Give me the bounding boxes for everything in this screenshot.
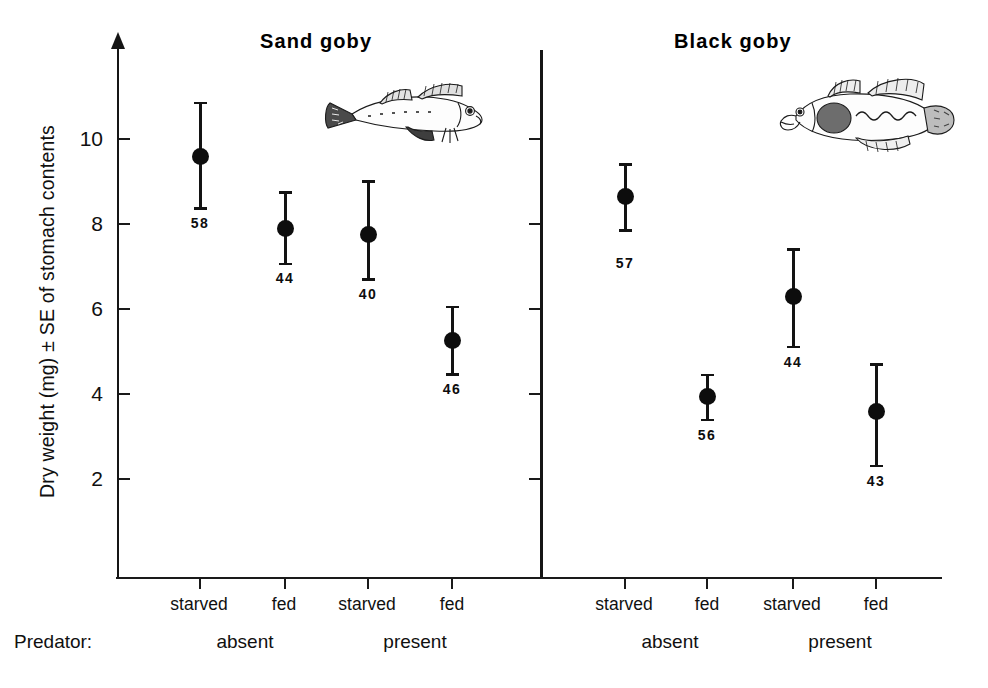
data-point-right-1[interactable]: [617, 188, 634, 205]
y-tick-label-4: 4: [63, 382, 103, 406]
data-point-left-4[interactable]: [444, 332, 461, 349]
error-cap-top-left-3: [362, 180, 375, 183]
error-cap-top-right-3: [787, 248, 800, 251]
panel-title-sand-goby: Sand goby: [260, 30, 372, 53]
data-point-left-1[interactable]: [192, 148, 209, 165]
error-cap-top-left-4: [446, 306, 459, 309]
left-panel-x-axis-line: [116, 577, 541, 579]
n-label-left-1: 58: [175, 215, 225, 231]
x-tick-label-left-1: starved: [149, 594, 249, 615]
group-label-right-absent: absent: [610, 631, 730, 653]
data-point-right-2[interactable]: [699, 388, 716, 405]
x-tick-left-2: [284, 578, 286, 589]
error-cap-bottom-right-4: [870, 465, 883, 468]
n-label-right-4: 43: [851, 473, 901, 489]
error-cap-top-left-1: [194, 102, 207, 105]
x-tick-label-left-3: starved: [317, 594, 417, 615]
figure-root: Dry weight (mg) ± SE of stomach contents…: [0, 0, 988, 688]
sand-goby-illustration: [322, 70, 494, 146]
data-point-left-2[interactable]: [277, 220, 294, 237]
error-cap-bottom-left-1: [194, 207, 207, 210]
black-goby-illustration: [772, 72, 958, 152]
error-cap-bottom-left-2: [279, 263, 292, 266]
data-point-right-4[interactable]: [868, 403, 885, 420]
error-cap-bottom-right-2: [701, 419, 714, 422]
n-label-right-2: 56: [682, 427, 732, 443]
group-label-left-present: present: [350, 631, 480, 653]
error-cap-bottom-right-1: [619, 229, 632, 232]
x-tick-right-4: [875, 578, 877, 589]
n-label-left-2: 44: [260, 270, 310, 286]
y-tick-6: [119, 308, 130, 310]
divider-tick-4: [529, 393, 540, 395]
panel-title-black-goby: Black goby: [674, 30, 792, 53]
error-cap-top-left-2: [279, 191, 292, 194]
panel-divider-line: [540, 50, 543, 579]
x-tick-label-right-1: starved: [574, 594, 674, 615]
y-tick-label-8: 8: [63, 212, 103, 236]
x-tick-label-right-2: fed: [672, 594, 742, 615]
y-axis-label: Dry weight (mg) ± SE of stomach contents: [36, 52, 59, 572]
x-tick-label-left-4: fed: [417, 594, 487, 615]
x-tick-left-1: [199, 578, 201, 589]
x-tick-label-left-2: fed: [249, 594, 319, 615]
n-label-left-4: 46: [427, 381, 477, 397]
y-tick-label-6: 6: [63, 297, 103, 321]
y-axis-line: [117, 46, 120, 579]
y-tick-label-10: 10: [63, 127, 103, 151]
predator-caption: Predator:: [14, 631, 92, 653]
error-cap-bottom-right-3: [787, 346, 800, 349]
right-panel-x-axis-line: [540, 577, 942, 579]
n-label-right-3: 44: [768, 354, 818, 370]
x-tick-label-right-3: starved: [742, 594, 842, 615]
x-tick-right-1: [624, 578, 626, 589]
x-tick-right-3: [792, 578, 794, 589]
x-tick-left-3: [367, 578, 369, 589]
y-tick-4: [119, 393, 130, 395]
x-tick-label-right-4: fed: [841, 594, 911, 615]
y-tick-2: [119, 478, 130, 480]
error-cap-bottom-left-3: [362, 278, 375, 281]
n-label-left-3: 40: [343, 286, 393, 302]
error-cap-top-right-4: [870, 363, 883, 366]
x-tick-right-2: [706, 578, 708, 589]
y-tick-10: [119, 138, 130, 140]
divider-tick-8: [529, 223, 540, 225]
error-cap-top-right-1: [619, 163, 632, 166]
data-point-right-3[interactable]: [785, 288, 802, 305]
group-label-left-absent: absent: [185, 631, 305, 653]
group-label-right-present: present: [775, 631, 905, 653]
data-point-left-3[interactable]: [360, 226, 377, 243]
divider-tick-2: [529, 478, 540, 480]
divider-tick-6: [529, 308, 540, 310]
y-tick-label-2: 2: [63, 467, 103, 491]
error-cap-top-right-2: [701, 374, 714, 377]
y-tick-8: [119, 223, 130, 225]
divider-tick-10: [529, 138, 540, 140]
error-cap-bottom-left-4: [446, 373, 459, 376]
n-label-right-1: 57: [600, 255, 650, 271]
x-tick-left-4: [451, 578, 453, 589]
